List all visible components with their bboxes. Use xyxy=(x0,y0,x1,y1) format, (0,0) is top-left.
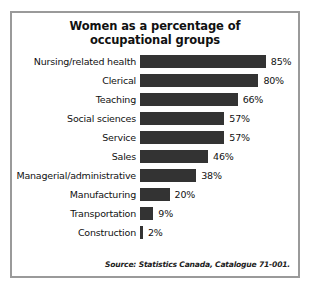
bar-value-label: 20% xyxy=(170,189,196,200)
bar-track: 46% xyxy=(140,150,298,163)
bar-row: Sales46% xyxy=(12,150,298,163)
bar-value-label: 80% xyxy=(258,75,284,86)
bar-track: 20% xyxy=(140,188,298,201)
source-note: Source: Statistics Canada, Catalogue 71-… xyxy=(105,260,290,269)
bar-value-label: 85% xyxy=(266,56,292,67)
bar-track: 2% xyxy=(140,226,298,239)
bar-track: 80% xyxy=(140,74,298,87)
bar-category-label: Service xyxy=(12,132,140,143)
bar-category-label: Clerical xyxy=(12,75,140,86)
bar-category-label: Construction xyxy=(12,227,140,238)
bar-category-label: Manufacturing xyxy=(12,189,140,200)
bar-row: Construction2% xyxy=(12,226,298,239)
bar-track: 57% xyxy=(140,131,298,144)
bar-value-label: 57% xyxy=(224,113,250,124)
chart-title: Women as a percentage of occupational gr… xyxy=(12,13,298,47)
bar xyxy=(140,150,208,163)
bar-row: Teaching66% xyxy=(12,93,298,106)
chart-title-line-2: occupational groups xyxy=(12,33,298,47)
bar-value-label: 38% xyxy=(196,170,222,181)
bar xyxy=(140,93,238,106)
bar-row: Social sciences57% xyxy=(12,112,298,125)
bar-category-label: Sales xyxy=(12,151,140,162)
bar xyxy=(140,188,170,201)
chart-figure: Women as a percentage of occupational gr… xyxy=(10,11,300,278)
bar-value-label: 66% xyxy=(238,94,264,105)
bar-category-label: Transportation xyxy=(12,208,140,219)
bar-value-label: 46% xyxy=(208,151,234,162)
bar-category-label: Managerial/administrative xyxy=(12,170,140,181)
bar-track: 66% xyxy=(140,93,298,106)
bar-chart-plot: Nursing/related health85%Clerical80%Teac… xyxy=(12,55,298,239)
bar-track: 85% xyxy=(140,55,298,68)
bar-track: 38% xyxy=(140,169,298,182)
bar-row: Service57% xyxy=(12,131,298,144)
bar xyxy=(140,169,196,182)
bar-value-label: 2% xyxy=(143,227,163,238)
bar-category-label: Teaching xyxy=(12,94,140,105)
bar-value-label: 9% xyxy=(153,208,173,219)
bar xyxy=(140,131,224,144)
bar xyxy=(140,55,266,68)
bar xyxy=(140,112,224,125)
bar xyxy=(140,207,153,220)
bar-row: Manufacturing20% xyxy=(12,188,298,201)
bar-row: Clerical80% xyxy=(12,74,298,87)
bar-track: 57% xyxy=(140,112,298,125)
bar-row: Managerial/administrative38% xyxy=(12,169,298,182)
bar-category-label: Nursing/related health xyxy=(12,56,140,67)
bar-value-label: 57% xyxy=(224,132,250,143)
bar xyxy=(140,74,258,87)
bar-row: Transportation9% xyxy=(12,207,298,220)
chart-title-line-1: Women as a percentage of xyxy=(12,19,298,33)
bar-category-label: Social sciences xyxy=(12,113,140,124)
bar-row: Nursing/related health85% xyxy=(12,55,298,68)
bar-track: 9% xyxy=(140,207,298,220)
